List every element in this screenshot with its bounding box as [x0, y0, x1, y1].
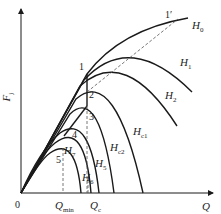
- label-h6: H6: [82, 172, 93, 186]
- point-1-prime: 1′: [165, 10, 172, 20]
- y-axis-label: Fj: [1, 93, 15, 102]
- qc-label: Qc: [90, 200, 101, 214]
- origin-label: 0: [15, 200, 20, 210]
- label-h0: H0: [192, 20, 203, 34]
- point-1: 1: [79, 62, 84, 72]
- curve-h1: [21, 58, 192, 193]
- qmin-label: Qmin: [55, 200, 74, 214]
- label-hc1: Hc1: [133, 126, 148, 140]
- x-axis-label: Q: [202, 201, 210, 212]
- curve-h2: [21, 72, 177, 193]
- point-5: 5: [56, 155, 61, 165]
- pump-characteristic-diagram: Fj Q 0 Qmin Qc H0 H1 H2 Hc1 Hc2 H5 H6 H7…: [0, 0, 221, 214]
- dashed-line-1-1prime: [87, 19, 178, 92]
- point-4: 4: [72, 130, 77, 140]
- label-h2: H2: [165, 90, 176, 104]
- label-h7: H7: [64, 145, 75, 159]
- diagram-canvas: [0, 0, 221, 214]
- label-h5: H5: [95, 158, 106, 172]
- point-2: 2: [89, 90, 94, 100]
- point-3: 3: [89, 112, 94, 122]
- label-h1: H1: [180, 57, 191, 71]
- label-hc2: Hc2: [110, 142, 125, 156]
